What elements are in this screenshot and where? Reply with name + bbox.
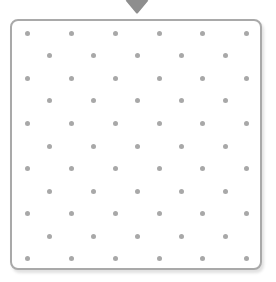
grid-dot[interactable] (113, 31, 118, 36)
grid-dot[interactable] (69, 256, 74, 261)
grid-dot[interactable] (69, 211, 74, 216)
grid-dot[interactable] (179, 189, 184, 194)
grid-dot[interactable] (91, 234, 96, 239)
grid-dot[interactable] (47, 144, 52, 149)
grid-dot[interactable] (113, 256, 118, 261)
grid-dot[interactable] (200, 76, 205, 81)
grid-dot[interactable] (157, 256, 162, 261)
grid-dot[interactable] (47, 53, 52, 58)
grid-dot[interactable] (135, 53, 140, 58)
grid-dot[interactable] (135, 189, 140, 194)
grid-dot[interactable] (113, 211, 118, 216)
grid-dot[interactable] (200, 166, 205, 171)
grid-dot[interactable] (91, 189, 96, 194)
grid-dot[interactable] (157, 76, 162, 81)
grid-dot[interactable] (157, 211, 162, 216)
grid-dot[interactable] (244, 31, 249, 36)
grid-dot[interactable] (25, 166, 30, 171)
grid-dot[interactable] (179, 144, 184, 149)
grid-dot[interactable] (200, 256, 205, 261)
grid-dot[interactable] (113, 166, 118, 171)
grid-dot[interactable] (47, 189, 52, 194)
grid-dot[interactable] (244, 121, 249, 126)
grid-dot[interactable] (223, 98, 228, 103)
grid-dot[interactable] (69, 121, 74, 126)
grid-dot[interactable] (91, 144, 96, 149)
grid-dot[interactable] (47, 234, 52, 239)
grid-dot[interactable] (244, 166, 249, 171)
grid-dot[interactable] (69, 76, 74, 81)
grid-dot[interactable] (69, 31, 74, 36)
grid-dot[interactable] (25, 76, 30, 81)
grid-dot[interactable] (200, 211, 205, 216)
grid-dot[interactable] (47, 98, 52, 103)
grid-dot[interactable] (244, 256, 249, 261)
grid-dot[interactable] (135, 144, 140, 149)
grid-dot[interactable] (223, 189, 228, 194)
grid-dot[interactable] (113, 76, 118, 81)
grid-dot[interactable] (69, 166, 74, 171)
grid-dot[interactable] (25, 211, 30, 216)
triangle-down-icon (124, 0, 150, 14)
grid-dot[interactable] (244, 211, 249, 216)
grid-dot[interactable] (157, 31, 162, 36)
grid-dot[interactable] (179, 53, 184, 58)
grid-dot[interactable] (200, 121, 205, 126)
grid-dot[interactable] (244, 76, 249, 81)
grid-dot[interactable] (223, 53, 228, 58)
grid-dot[interactable] (135, 234, 140, 239)
grid-dot[interactable] (223, 144, 228, 149)
grid-dot[interactable] (91, 53, 96, 58)
grid-dot[interactable] (157, 121, 162, 126)
grid-dot[interactable] (157, 166, 162, 171)
grid-dot[interactable] (25, 121, 30, 126)
grid-dot[interactable] (25, 256, 30, 261)
grid-dot[interactable] (25, 31, 30, 36)
grid-dot[interactable] (223, 234, 228, 239)
grid-dot[interactable] (179, 234, 184, 239)
grid-dot[interactable] (113, 121, 118, 126)
grid-dot[interactable] (179, 98, 184, 103)
grid-dot[interactable] (91, 98, 96, 103)
grid-dot[interactable] (135, 98, 140, 103)
grid-dot[interactable] (200, 31, 205, 36)
